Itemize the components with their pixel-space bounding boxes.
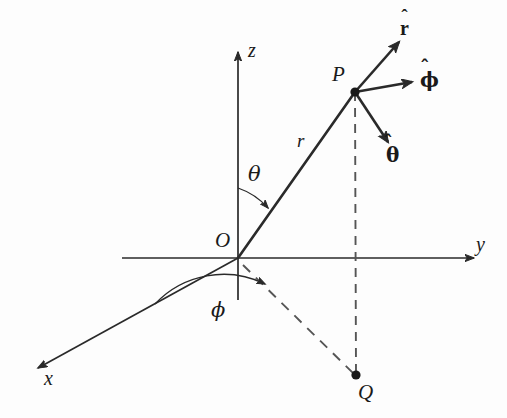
axis-x-line [38, 258, 238, 368]
spherical-coordinates-diagram: x y z O P Q r θ ϕ ̂r ̂ϕ ̂θ [0, 0, 507, 418]
unit-vector-label-theta-hat: ̂θ [386, 145, 399, 165]
angle-arc-theta [238, 188, 268, 208]
axes-group [38, 52, 474, 368]
point-marker-q [351, 370, 360, 379]
axis-label-y: y [476, 234, 485, 254]
radius-label-r: r [297, 131, 304, 150]
unit-vector-label-r-hat: ̂r [400, 18, 409, 38]
angle-arc-phi [155, 274, 265, 304]
vector-theta-hat-arrow [355, 92, 388, 142]
point-label-q: Q [358, 382, 373, 403]
point-label-o: O [215, 230, 230, 251]
angle-arcs-group [155, 188, 268, 304]
theta-hat-glyph: ̂θ [386, 145, 399, 165]
diagram-canvas [0, 0, 507, 418]
r-hat-glyph: ̂r [400, 18, 409, 38]
unit-vector-label-phi-hat: ̂ϕ [420, 70, 439, 90]
angle-label-phi: ϕ [211, 300, 225, 321]
angle-label-theta: θ [248, 164, 261, 185]
axis-label-z: z [248, 40, 256, 60]
axis-label-x: x [44, 368, 53, 388]
point-label-p: P [332, 64, 345, 85]
point-marker-p [350, 87, 359, 96]
dashed-line-p-to-q [355, 92, 356, 373]
unit-vectors-group [355, 42, 412, 142]
phi-hat-glyph: ̂ϕ [420, 70, 439, 90]
